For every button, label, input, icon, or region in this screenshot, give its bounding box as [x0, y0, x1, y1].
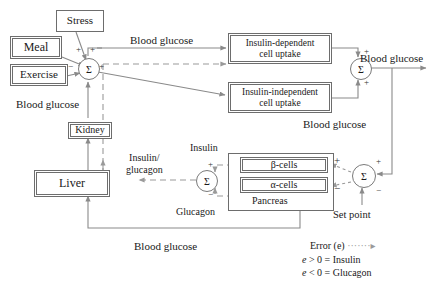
legend-e1-rest: > 0 = Insulin [309, 254, 361, 265]
label-set-point: Set point [333, 209, 371, 220]
node-meal-label: Meal [24, 41, 49, 54]
node-stress-label: Stress [67, 15, 93, 27]
sign-mid-insulin: + [208, 160, 213, 169]
node-kidney[interactable]: Kidney [68, 122, 112, 139]
node-exercise-label: Exercise [20, 69, 58, 81]
sum-bottom-right-sigma: Σ [361, 171, 367, 182]
node-beta-cells[interactable]: β-cells [240, 157, 328, 173]
sign-topright-b: + [364, 78, 369, 87]
sign-left-stress: + [76, 45, 81, 54]
insulin-independent-line2: cell uptake [259, 98, 300, 108]
insulin-glucagon-line1: Insulin/ [126, 152, 163, 164]
label-blood-glucose-output: Blood glucose [360, 52, 423, 64]
node-meal[interactable]: Meal [10, 36, 62, 59]
node-alpha-cells[interactable]: α-cells [240, 177, 328, 193]
legend-positive-error: e > 0 = Insulin [302, 254, 361, 265]
legend-error-arrow-icon: ·······▸ [347, 240, 375, 251]
sign-br-beta: + [334, 155, 340, 166]
node-exercise[interactable]: Exercise [10, 64, 68, 86]
insulin-dependent-line1: Insulin-dependent [246, 38, 315, 48]
legend-error: Error (e) ·······▸ [310, 240, 376, 251]
sign-br-alpha: − [334, 183, 340, 194]
node-insulin-independent-uptake[interactable]: Insulin-independent cell uptake [228, 82, 332, 113]
sign-left-meal: + [90, 45, 95, 54]
beta-cells-label: β-cells [271, 160, 298, 171]
insulin-independent-line1: Insulin-independent [242, 87, 318, 97]
label-insulin-glucagon: Insulin/ glucagon [126, 152, 163, 175]
sign-mid-glucagon: − [208, 190, 213, 199]
sign-left-exercise: − [68, 62, 73, 71]
node-liver[interactable]: Liver [34, 170, 110, 197]
label-blood-glucose-bottom: Blood glucose [134, 240, 197, 252]
sign-left-output: + [99, 62, 104, 71]
legend-e2-rest: < 0 = Glucagon [309, 267, 372, 278]
sign-br-feedback: + [376, 157, 381, 166]
sum-junction-left[interactable]: Σ [78, 58, 100, 80]
sum-mid-sigma: Σ [204, 176, 210, 187]
node-liver-label: Liver [59, 177, 85, 190]
legend-e1: e [302, 254, 306, 265]
sum-left-sigma: Σ [86, 64, 92, 75]
legend-negative-error: e < 0 = Glucagon [302, 267, 372, 278]
sum-junction-mid[interactable]: Σ [196, 170, 218, 192]
node-insulin-dependent-uptake[interactable]: Insulin-dependent cell uptake [228, 33, 332, 64]
label-blood-glucose-left: Blood glucose [16, 98, 79, 110]
label-insulin: Insulin [190, 142, 218, 153]
node-kidney-label: Kidney [75, 125, 104, 136]
label-glucagon: Glucagon [176, 206, 215, 217]
label-blood-glucose-mid: Blood glucose [303, 118, 366, 130]
alpha-cells-label: α-cells [271, 180, 298, 191]
sign-br-setpoint: − [376, 186, 381, 195]
pancreas-label: Pancreas [252, 195, 288, 206]
diagram-canvas: Stress Meal Exercise Kidney Liver Insuli… [0, 0, 434, 288]
legend-e2: e [302, 267, 306, 278]
insulin-glucagon-line2: glucagon [126, 164, 163, 176]
sum-junction-bottom-right[interactable]: Σ [352, 164, 376, 188]
node-stress[interactable]: Stress [56, 10, 104, 32]
label-blood-glucose-top: Blood glucose [130, 34, 193, 46]
legend-error-label: Error (e) [310, 240, 345, 251]
sum-top-right-sigma: Σ [358, 64, 364, 75]
insulin-dependent-line2: cell uptake [259, 49, 300, 59]
